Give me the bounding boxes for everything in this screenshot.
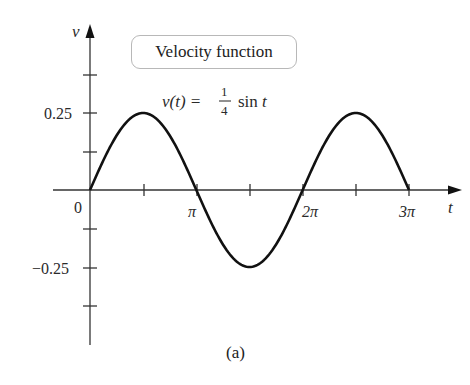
y-tick-label-0.25: 0.25: [44, 105, 72, 122]
equation-rhs: sin t: [238, 92, 268, 111]
chart-title: Velocity function: [155, 42, 273, 62]
sin-text: sin: [238, 92, 262, 111]
equation: v(t) = 1 4 sin t: [162, 84, 268, 118]
x-tick-label-3pi: 3π: [398, 203, 416, 220]
y-axis-label: v: [72, 22, 80, 41]
chart-title-box: Velocity function: [131, 35, 297, 69]
t-var: t: [262, 92, 268, 111]
figure-caption: (a): [226, 343, 245, 363]
y-tick-label-neg-0.25: −0.25: [32, 260, 69, 277]
x-tick-label-0: 0: [74, 199, 82, 216]
x-axis-arrow-icon: [448, 186, 462, 195]
equation-lhs: v(t) =: [162, 92, 201, 111]
x-axis-label: t: [448, 198, 454, 217]
y-axis-arrow-icon: [86, 24, 95, 38]
x-tick-label-pi: π: [188, 203, 197, 220]
equation-numerator: 1: [221, 84, 228, 99]
x-tick-label-2pi: 2π: [302, 203, 319, 220]
equation-denominator: 4: [221, 103, 228, 118]
